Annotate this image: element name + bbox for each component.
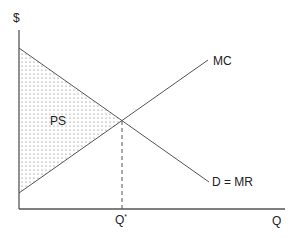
x-axis-label: Q — [272, 214, 281, 228]
economics-diagram: $ Q MC D = MR PS Q* — [0, 0, 299, 238]
q-star-label: Q* — [115, 213, 127, 227]
q-star-letter: Q — [115, 213, 124, 227]
y-axis-label: $ — [13, 11, 20, 25]
q-star-superscript: * — [124, 213, 127, 220]
producer-surplus-region — [19, 48, 122, 193]
ps-label: PS — [50, 114, 66, 128]
demand-label: D = MR — [212, 175, 253, 189]
mc-label: MC — [213, 54, 232, 68]
